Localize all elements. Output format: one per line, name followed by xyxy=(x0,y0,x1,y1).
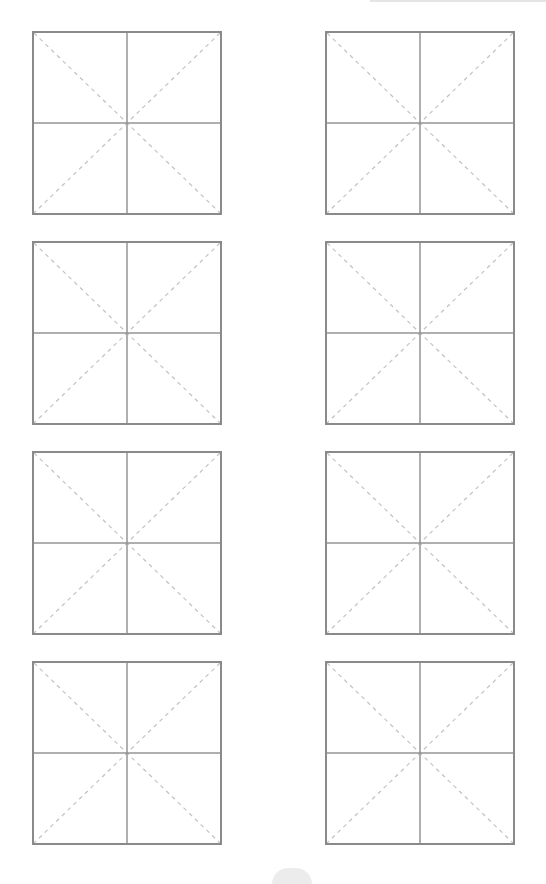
practice-cell-r2-c1 xyxy=(32,241,222,425)
practice-cell-r3-c2 xyxy=(325,451,515,635)
practice-cell-r2-c2 xyxy=(325,241,515,425)
mi-grid-icon xyxy=(325,451,515,635)
mi-grid-icon xyxy=(325,241,515,425)
practice-cell-r4-c1 xyxy=(32,661,222,845)
mi-grid-icon xyxy=(32,451,222,635)
mi-grid-icon xyxy=(32,241,222,425)
mi-grid-icon xyxy=(325,31,515,215)
practice-cell-r3-c1 xyxy=(32,451,222,635)
bottom-page-handle[interactable] xyxy=(272,868,312,884)
practice-cell-r1-c1 xyxy=(32,31,222,215)
mi-grid-icon xyxy=(325,661,515,845)
practice-cell-r4-c2 xyxy=(325,661,515,845)
practice-cell-r1-c2 xyxy=(325,31,515,215)
top-scroll-edge xyxy=(370,0,546,2)
mi-grid-icon xyxy=(32,661,222,845)
mi-grid-icon xyxy=(32,31,222,215)
